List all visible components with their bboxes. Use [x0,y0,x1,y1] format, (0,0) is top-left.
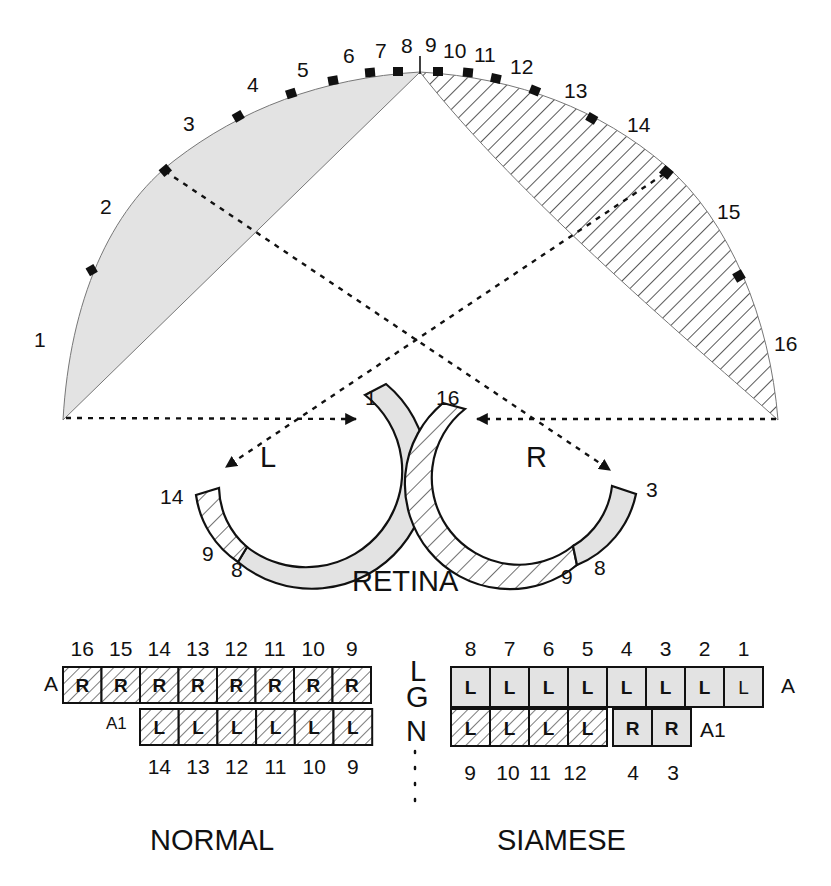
field-label-1: 1 [34,328,46,351]
normal-a-cell-label: R [191,675,205,696]
field-label-2: 2 [100,195,112,218]
normal-a1-number: 9 [347,755,359,778]
siamese-a-number: 8 [465,637,477,660]
siamese-layer-a-label: A [781,674,795,697]
siamese-a-cell-label: L [582,677,594,698]
siamese-a-cell-label: L [660,677,672,698]
right-retina-label-3: 3 [646,478,658,501]
normal-a1-number: 11 [265,755,287,778]
siamese-a1-hatched-cell-label: L [582,718,594,739]
visual-pathway-diagram: 1 2 3 4 5 6 7 8 9 10 11 12 13 14 15 16 [0,0,831,886]
normal-a-number: 16 [71,637,94,660]
normal-a-cell-label: R [114,675,128,696]
normal-layer-a1-cells: LLLLLL [140,709,372,745]
normal-a1-number: 12 [225,755,248,778]
left-retina-label-14: 14 [160,485,184,508]
normal-a-number: 13 [186,637,209,660]
field-label-4: 4 [247,73,259,96]
normal-a1-cell-label: L [308,717,320,738]
lgn: L G N A RRRRRRRR 161514131211109 A1 LLLL… [44,637,795,856]
field-label-11: 11 [474,43,496,66]
siamese-a-number: 2 [699,637,711,660]
normal-a-cell-label: R [306,675,320,696]
siamese-a-number: 3 [660,637,672,660]
normal-layer-a1-label: A1 [106,714,127,733]
siamese-a1-number: 11 [529,761,551,784]
normal-lgn: A RRRRRRRR 161514131211109 A1 LLLLLL 141… [44,637,372,856]
normal-a-cell-label: R [268,675,282,696]
field-label-12: 12 [510,55,533,78]
siamese-a1-number: 9 [464,761,476,784]
left-retina-label-8: 8 [231,558,243,581]
normal-layer-a-cells: RRRRRRRR [63,667,371,703]
siamese-a1-number: 12 [563,761,586,784]
left-retina-label-9: 9 [202,542,214,565]
normal-a-cell-label: R [229,675,243,696]
siamese-a-number: 1 [738,637,750,660]
normal-a1-cell-label: L [347,717,359,738]
normal-a1-number: 10 [302,755,325,778]
normal-a1-cell-label: L [270,717,282,738]
normal-a1-number: 14 [148,755,172,778]
normal-a1-cell-label: L [154,717,166,738]
normal-a-number: 12 [225,637,248,660]
normal-title: NORMAL [150,824,274,856]
normal-layer-a-numbers: 161514131211109 [71,637,358,660]
siamese-layer-a1-numbers: 910111243 [464,761,679,784]
field-label-5: 5 [297,58,309,81]
right-retina-gray-segment [573,486,636,565]
field-label-8: 8 [401,34,413,57]
right-retina-label-16: 16 [436,386,459,409]
normal-a1-cell-label: L [231,717,243,738]
right-hemifield-hatched [420,72,778,420]
normal-layer-a1-numbers: 14131211109 [148,755,359,778]
field-label-3: 3 [183,112,195,135]
normal-a-cell-label: R [345,675,359,696]
field-label-7: 7 [375,39,387,62]
field-label-9: 9 [425,33,437,56]
left-retina-gray-segment [238,384,428,589]
siamese-a1-hatched-cell-label: L [504,718,516,739]
normal-a1-number: 13 [186,755,209,778]
siamese-a-number: 4 [621,637,633,660]
normal-a-number: 9 [346,637,358,660]
siamese-layer-a1-label: A1 [700,718,726,741]
normal-a-number: 15 [109,637,132,660]
siamese-a-cell-label: L [465,677,477,698]
field-label-6: 6 [343,44,355,67]
normal-layer-a-label: A [44,672,58,695]
siamese-a-number: 5 [582,637,594,660]
siamese-layer-a1-cells: LLLLRR [451,709,691,746]
normal-a1-cell-label: L [192,717,204,738]
projection-line-1-to-left-retina [66,418,356,419]
lgn-letter-n: N [406,715,427,747]
siamese-a1-number: 3 [667,761,679,784]
normal-a-cell-label: R [152,675,166,696]
field-label-10: 10 [443,39,466,62]
field-label-15: 15 [717,200,740,223]
siamese-a1-hatched-cell-label: L [465,718,477,739]
normal-a-number: 10 [302,637,325,660]
siamese-layer-a-cells: LLLLLLLL [451,667,763,707]
siamese-a-number: 7 [504,637,516,660]
retina: L R 1 14 9 8 16 3 9 8 RETINA [160,384,658,597]
siamese-a-cell-label: L [699,677,711,698]
field-label-16: 16 [774,332,797,355]
field-label-13: 13 [564,79,587,102]
siamese-a1-number: 4 [627,761,639,784]
siamese-a1-hatched-cell-label: L [543,718,555,739]
siamese-a-cell-label: L [738,677,749,698]
projection-line-2-to-right-retina [165,171,610,470]
left-eye-label: L [260,441,276,473]
left-hemifield-gray [63,72,420,420]
normal-a-cell-label: R [75,675,89,696]
field-label-14: 14 [627,113,651,136]
siamese-a1-gray-cell-label: R [665,718,679,739]
normal-a-number: 11 [264,637,286,660]
right-eye-label: R [526,441,547,473]
retina-title: RETINA [352,565,459,597]
left-retina-label-1: 1 [365,386,377,409]
normal-a-number: 14 [148,637,172,660]
visual-field: 1 2 3 4 5 6 7 8 9 10 11 12 13 14 15 16 [34,33,797,470]
siamese-a1-gray-cell-label: R [626,718,640,739]
